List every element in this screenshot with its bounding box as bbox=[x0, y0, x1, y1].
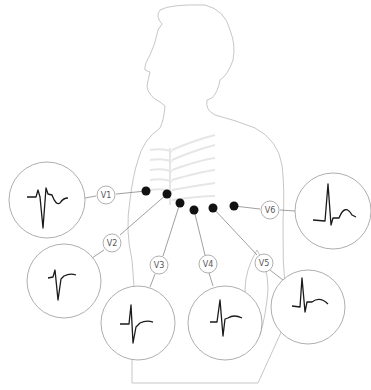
electrode-v3 bbox=[176, 199, 185, 208]
svg-text:V6: V6 bbox=[265, 206, 276, 215]
svg-text:V2: V2 bbox=[107, 239, 118, 248]
rib-cage bbox=[150, 135, 215, 205]
ecg-circle-v2 bbox=[27, 244, 101, 318]
electrode-v2 bbox=[163, 190, 172, 199]
electrodes bbox=[142, 187, 239, 215]
label-v4: V4 bbox=[199, 255, 217, 273]
label-v3: V3 bbox=[150, 256, 168, 274]
ecg-lead-diagram: V1 V2 V3 V4 V5 V6 bbox=[0, 0, 371, 390]
ecg-panels bbox=[9, 162, 371, 360]
electrode-v1 bbox=[142, 187, 151, 196]
ecg-circle-v5 bbox=[271, 270, 345, 344]
svg-text:V1: V1 bbox=[101, 191, 112, 200]
svg-text:V4: V4 bbox=[203, 260, 214, 269]
electrode-v5 bbox=[209, 204, 218, 213]
label-v6: V6 bbox=[261, 201, 279, 219]
label-v5: V5 bbox=[255, 254, 273, 272]
label-v1: V1 bbox=[97, 186, 115, 204]
ecg-circle-v1 bbox=[9, 162, 85, 238]
ecg-circle-v6 bbox=[295, 173, 371, 249]
electrode-v6 bbox=[230, 202, 239, 211]
electrode-v4 bbox=[190, 206, 199, 215]
svg-text:V3: V3 bbox=[154, 261, 165, 270]
ecg-circle-v3 bbox=[101, 286, 175, 360]
svg-text:V5: V5 bbox=[259, 259, 270, 268]
label-v2: V2 bbox=[103, 234, 121, 252]
